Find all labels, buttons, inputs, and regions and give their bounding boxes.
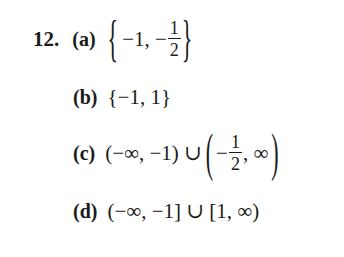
left-big-paren: (: [206, 122, 213, 184]
problem-number: 12.: [33, 27, 59, 52]
minus-sign: −: [216, 141, 228, 166]
problem-12-part-a: 12. (a) { −1, − 1 2 }: [33, 12, 192, 66]
part-d-answer: (−∞, −1] ∪ [1, ∞): [107, 199, 259, 224]
fraction-denominator: 2: [229, 153, 242, 173]
part-a-first-terms: −1, −: [122, 27, 167, 52]
problem-12-part-b: (b) {−1, 1}: [73, 84, 171, 110]
left-brace: {: [108, 9, 119, 69]
fraction-denominator: 2: [168, 39, 181, 59]
fraction-one-half: 1 2: [168, 19, 181, 59]
problem-12-part-c: (c) (−∞, −1) ∪ ( − 1 2 , ∞ ): [73, 124, 279, 182]
part-b-label: (b): [73, 86, 97, 109]
part-a-label: (a): [72, 28, 95, 51]
right-brace: }: [182, 9, 193, 69]
fraction-numerator: 1: [168, 19, 181, 39]
part-c-answer: (−∞, −1) ∪ ( − 1 2 , ∞ ): [105, 133, 278, 173]
part-c-left-interval: (−∞, −1) ∪: [105, 141, 202, 166]
part-b-answer: {−1, 1}: [107, 85, 171, 110]
part-a-answer: { −1, − 1 2 }: [108, 19, 193, 59]
part-c-tail: , ∞: [243, 141, 268, 166]
part-d-label: (d): [73, 200, 97, 223]
fraction-one-half: 1 2: [229, 133, 242, 173]
problem-12-part-d: (d) (−∞, −1] ∪ [1, ∞): [73, 198, 259, 224]
part-c-label: (c): [73, 142, 95, 165]
fraction-numerator: 1: [229, 133, 242, 153]
right-big-paren: ): [271, 122, 278, 184]
